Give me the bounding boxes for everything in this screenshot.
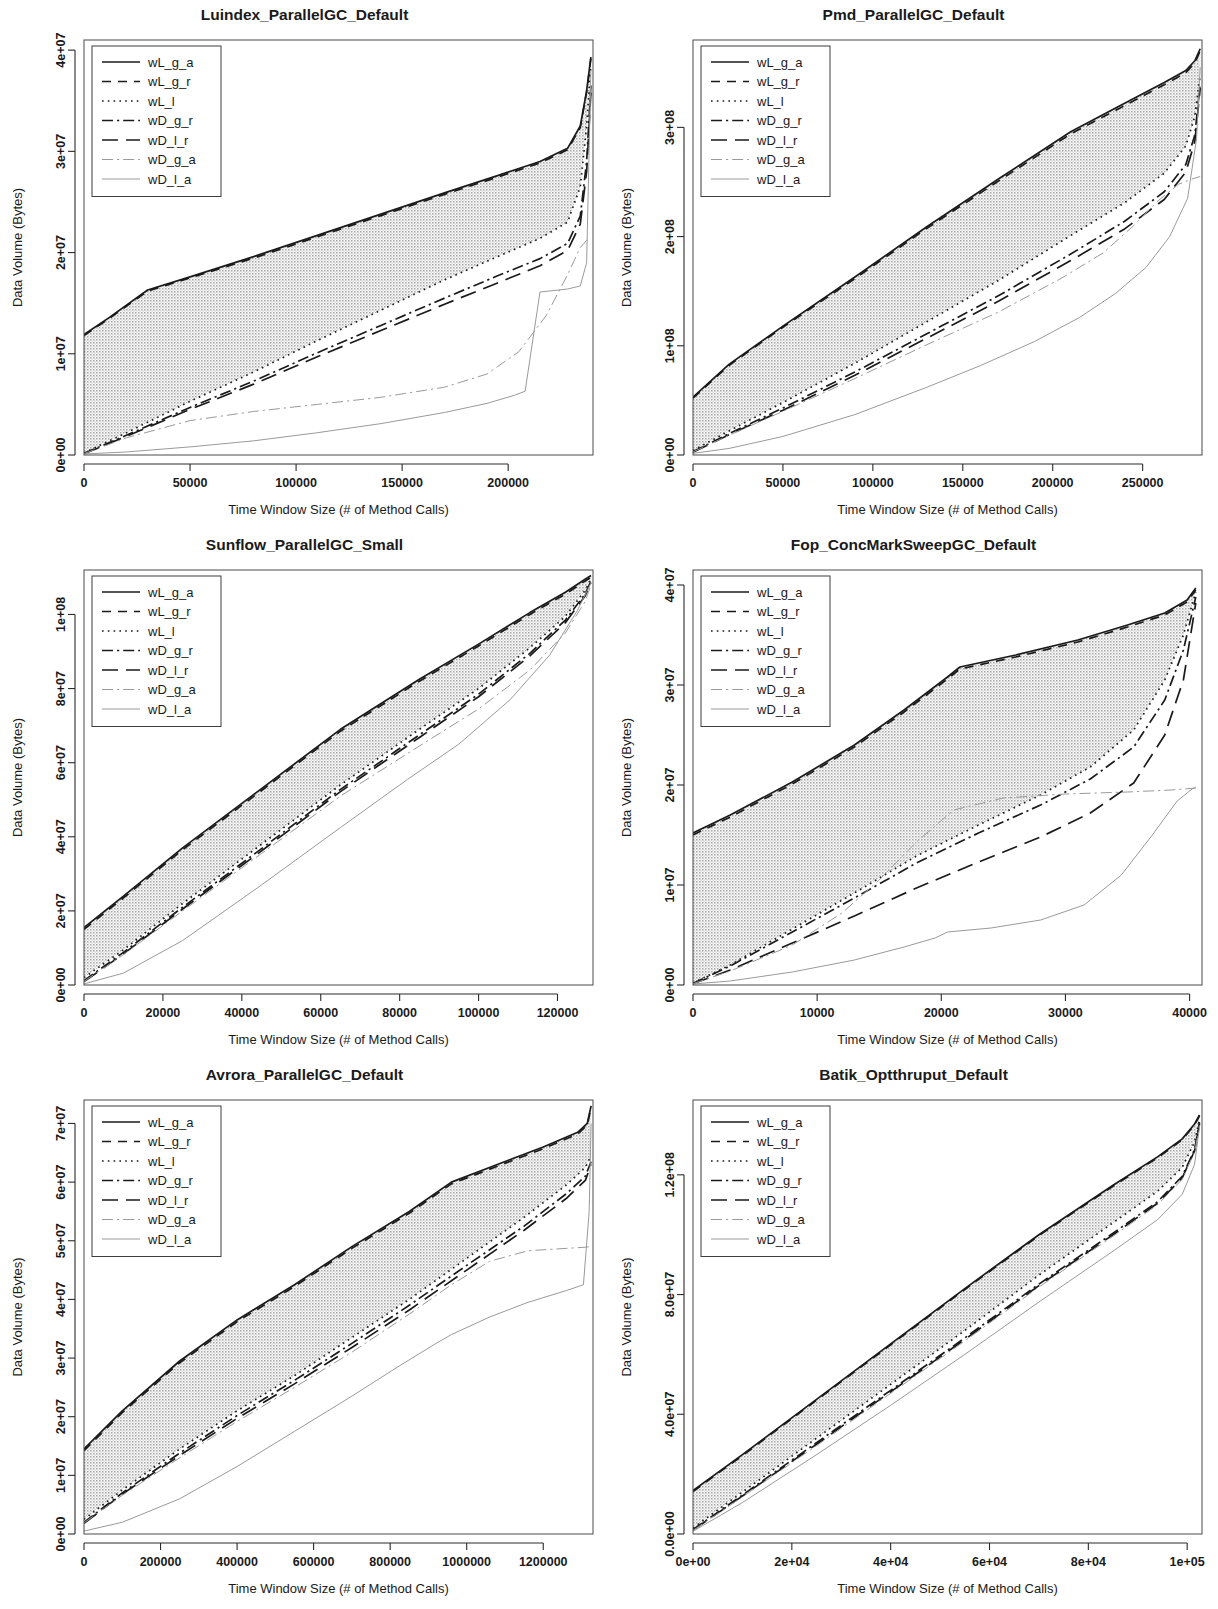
chart-grid: Luindex_ParallelGC_Default0e+001e+072e+0…	[0, 0, 1218, 1609]
x-tick-label: 1e+05	[1170, 1555, 1205, 1569]
chart-title: Sunflow_ParallelGC_Small	[206, 536, 403, 553]
legend-label-wD_l_r: wD_l_r	[756, 133, 798, 148]
x-tick-label: 150000	[381, 476, 423, 490]
legend-label-wD_l_r: wD_l_r	[147, 133, 189, 148]
y-tick-label: 0.0e+00	[663, 1511, 677, 1557]
y-tick-label: 0e+00	[663, 967, 677, 1002]
legend-label-wD_g_a: wD_g_a	[756, 1212, 805, 1227]
x-tick-label: 0	[690, 476, 697, 490]
legend-label-wL_g_a: wL_g_a	[756, 585, 803, 600]
y-tick-label: 3e+07	[54, 134, 68, 169]
y-tick-label: 6e+07	[54, 1165, 68, 1200]
x-tick-label: 6e+04	[972, 1555, 1007, 1569]
chart-svg: Sunflow_ParallelGC_Small0e+002e+074e+076…	[0, 530, 609, 1060]
y-tick-label: 4e+07	[54, 33, 68, 68]
x-tick-label: 200000	[1032, 476, 1074, 490]
legend-label-wD_g_a: wD_g_a	[147, 1212, 196, 1227]
x-axis-label: Time Window Size (# of Method Calls)	[228, 1032, 449, 1047]
chart-title: Fop_ConcMarkSweepGC_Default	[791, 536, 1036, 553]
x-tick-label: 2e+04	[774, 1555, 809, 1569]
y-axis-label: Data Volume (Bytes)	[10, 188, 25, 307]
legend-label-wL_l: wL_l	[756, 1154, 784, 1169]
x-tick-label: 8e+04	[1071, 1555, 1106, 1569]
figure-page: Luindex_ParallelGC_Default0e+001e+072e+0…	[0, 0, 1218, 1609]
x-tick-label: 40000	[224, 1006, 259, 1020]
chart-svg: Luindex_ParallelGC_Default0e+001e+072e+0…	[0, 0, 609, 530]
x-axis-label: Time Window Size (# of Method Calls)	[228, 502, 449, 517]
chart-svg: Batik_Optthruput_Default0.0e+004.0e+078.…	[609, 1060, 1218, 1609]
x-tick-label: 150000	[942, 476, 984, 490]
y-tick-label: 4.0e+07	[663, 1391, 677, 1437]
x-axis-label: Time Window Size (# of Method Calls)	[228, 1581, 449, 1596]
chart-title: Pmd_ParallelGC_Default	[823, 6, 1005, 23]
x-axis-label: Time Window Size (# of Method Calls)	[837, 1581, 1058, 1596]
x-tick-label: 20000	[924, 1006, 959, 1020]
legend-label-wD_l_r: wD_l_r	[147, 663, 189, 678]
legend-label-wD_g_r: wD_g_r	[147, 1173, 193, 1188]
legend-label-wL_g_r: wL_g_r	[756, 74, 800, 89]
chart-panel: Sunflow_ParallelGC_Small0e+002e+074e+076…	[0, 530, 609, 1060]
legend-label-wD_l_a: wD_l_a	[756, 702, 801, 717]
chart-svg: Avrora_ParallelGC_Default0e+001e+072e+07…	[0, 1060, 609, 1609]
x-axis-label: Time Window Size (# of Method Calls)	[837, 502, 1058, 517]
x-tick-label: 120000	[537, 1006, 579, 1020]
y-tick-label: 2e+07	[663, 767, 677, 802]
chart-title: Avrora_ParallelGC_Default	[206, 1066, 404, 1083]
y-tick-label: 0e+00	[54, 967, 68, 1002]
chart-panel: Fop_ConcMarkSweepGC_Default0e+001e+072e+…	[609, 530, 1218, 1060]
y-tick-label: 1e+08	[663, 328, 677, 363]
legend-label-wD_g_r: wD_g_r	[756, 643, 802, 658]
y-tick-label: 1e+07	[663, 867, 677, 902]
y-tick-label: 5e+07	[54, 1223, 68, 1258]
y-axis-label: Data Volume (Bytes)	[10, 1257, 25, 1376]
y-tick-label: 8e+07	[54, 671, 68, 706]
legend-label-wL_l: wL_l	[147, 1154, 175, 1169]
y-tick-label: 3e+07	[663, 667, 677, 702]
y-tick-label: 2e+07	[54, 235, 68, 270]
legend-label-wD_g_a: wD_g_a	[147, 682, 196, 697]
legend-label-wL_g_a: wL_g_a	[147, 55, 194, 70]
legend-label-wL_l: wL_l	[756, 94, 784, 109]
y-tick-label: 0e+00	[663, 437, 677, 472]
legend-label-wL_g_r: wL_g_r	[756, 604, 800, 619]
y-tick-label: 1e+07	[54, 336, 68, 371]
legend-label-wL_l: wL_l	[756, 624, 784, 639]
y-tick-label: 4e+07	[54, 1282, 68, 1317]
y-tick-label: 0e+00	[54, 1516, 68, 1551]
x-tick-label: 600000	[293, 1555, 335, 1569]
x-tick-label: 400000	[216, 1555, 258, 1569]
x-tick-label: 1000000	[442, 1555, 491, 1569]
x-tick-label: 0	[81, 476, 88, 490]
y-tick-label: 2e+07	[54, 893, 68, 928]
x-tick-label: 250000	[1122, 476, 1164, 490]
legend-label-wL_g_r: wL_g_r	[147, 74, 191, 89]
chart-panel: Pmd_ParallelGC_Default0e+001e+082e+083e+…	[609, 0, 1218, 530]
legend-label-wL_g_r: wL_g_r	[756, 1134, 800, 1149]
y-tick-label: 3e+07	[54, 1340, 68, 1375]
legend-label-wL_g_r: wL_g_r	[147, 1134, 191, 1149]
y-axis-label: Data Volume (Bytes)	[10, 718, 25, 837]
x-tick-label: 200000	[487, 476, 529, 490]
legend-label-wL_l: wL_l	[147, 94, 175, 109]
y-axis-label: Data Volume (Bytes)	[619, 718, 634, 837]
x-tick-label: 60000	[303, 1006, 338, 1020]
legend-label-wD_g_r: wD_g_r	[756, 113, 802, 128]
x-tick-label: 100000	[275, 476, 317, 490]
legend-label-wD_l_r: wD_l_r	[756, 663, 798, 678]
legend-label-wD_l_a: wD_l_a	[147, 1232, 192, 1247]
chart-panel: Luindex_ParallelGC_Default0e+001e+072e+0…	[0, 0, 609, 530]
y-tick-label: 6e+07	[54, 745, 68, 780]
x-tick-label: 100000	[458, 1006, 500, 1020]
y-tick-label: 0e+00	[54, 437, 68, 472]
y-tick-label: 3e+08	[663, 110, 677, 145]
legend-label-wD_l_r: wD_l_r	[756, 1193, 798, 1208]
chart-title: Luindex_ParallelGC_Default	[201, 6, 409, 23]
x-tick-label: 4e+04	[873, 1555, 908, 1569]
x-tick-label: 0	[81, 1006, 88, 1020]
chart-panel: Avrora_ParallelGC_Default0e+001e+072e+07…	[0, 1060, 609, 1609]
chart-panel: Batik_Optthruput_Default0.0e+004.0e+078.…	[609, 1060, 1218, 1609]
legend-label-wD_g_a: wD_g_a	[756, 682, 805, 697]
legend-label-wL_g_a: wL_g_a	[147, 585, 194, 600]
legend-label-wD_g_a: wD_g_a	[147, 152, 196, 167]
legend-label-wL_g_r: wL_g_r	[147, 604, 191, 619]
